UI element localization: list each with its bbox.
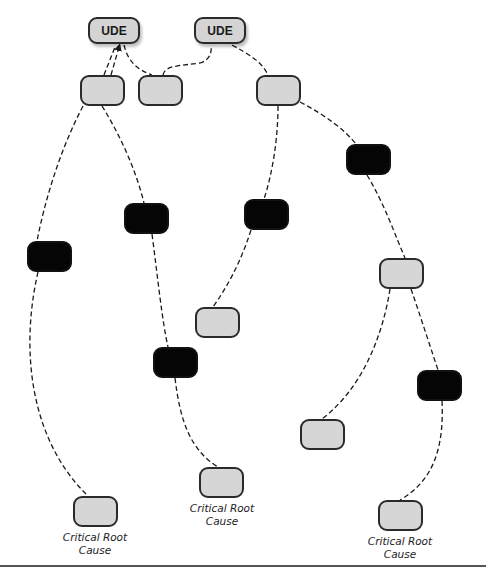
label-line-1: Critical Root bbox=[355, 535, 445, 548]
link-line bbox=[163, 45, 211, 75]
link-line bbox=[322, 289, 390, 419]
label-line-2: Cause bbox=[355, 548, 445, 561]
gray-node bbox=[300, 419, 345, 450]
gray-node bbox=[379, 258, 424, 289]
gray-node bbox=[80, 75, 125, 106]
ude-node: UDE bbox=[88, 17, 140, 44]
label-line-2: Cause bbox=[177, 515, 267, 528]
ude-node: UDE bbox=[194, 17, 246, 44]
gray-node bbox=[256, 75, 301, 106]
link-line bbox=[30, 272, 88, 496]
bottom-rule bbox=[0, 565, 486, 567]
node-label: UDE bbox=[207, 24, 232, 38]
label-line-1: Critical Root bbox=[50, 531, 140, 544]
black-node bbox=[27, 241, 72, 272]
gray-node bbox=[73, 496, 118, 527]
link-line bbox=[175, 378, 218, 467]
link-line bbox=[124, 45, 152, 75]
gray-node bbox=[199, 467, 244, 498]
critical-root-cause-label: Critical RootCause bbox=[50, 531, 140, 557]
link-line bbox=[367, 175, 405, 258]
link-line bbox=[300, 102, 356, 144]
link-line bbox=[102, 106, 144, 203]
critical-root-cause-label: Critical RootCause bbox=[177, 502, 267, 528]
link-line bbox=[232, 45, 268, 75]
link-line bbox=[152, 234, 168, 347]
gray-node bbox=[195, 307, 240, 338]
label-line-2: Cause bbox=[50, 544, 140, 557]
gray-node bbox=[138, 75, 183, 106]
critical-root-cause-label: Critical RootCause bbox=[355, 535, 445, 561]
black-node bbox=[346, 144, 391, 175]
link-line bbox=[213, 230, 251, 307]
node-label: UDE bbox=[101, 24, 126, 38]
black-node bbox=[417, 370, 462, 401]
link-line bbox=[111, 47, 119, 75]
gray-node bbox=[378, 500, 423, 531]
link-line bbox=[411, 289, 438, 370]
link-line bbox=[264, 106, 278, 199]
black-node bbox=[153, 347, 198, 378]
link-line bbox=[104, 47, 115, 75]
black-node bbox=[124, 203, 169, 234]
link-line bbox=[37, 106, 83, 241]
link-line bbox=[400, 401, 442, 500]
black-node bbox=[244, 199, 289, 230]
label-line-1: Critical Root bbox=[177, 502, 267, 515]
